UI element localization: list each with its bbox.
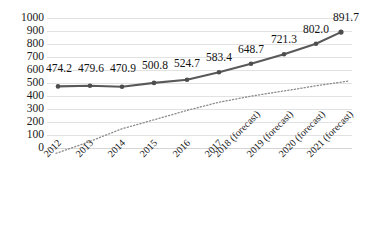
data-label: 802.0: [296, 24, 336, 36]
data-label: 721.3: [264, 34, 304, 46]
data-point-marker: [120, 85, 125, 90]
data-point-marker: [249, 61, 254, 66]
data-point-marker: [282, 52, 287, 57]
data-point-marker: [314, 41, 319, 46]
data-point-marker: [185, 78, 190, 83]
data-point-marker: [338, 29, 343, 34]
data-point-marker: [152, 81, 157, 86]
line-chart: 1000 900 800 700 600 500 400 300 200 100…: [0, 0, 368, 225]
data-label: 891.7: [325, 12, 367, 24]
trendline-series: [56, 81, 348, 153]
data-point-marker: [56, 84, 61, 89]
data-point-marker: [88, 83, 93, 88]
data-point-marker: [217, 70, 222, 75]
data-label: 648.7: [231, 44, 271, 56]
